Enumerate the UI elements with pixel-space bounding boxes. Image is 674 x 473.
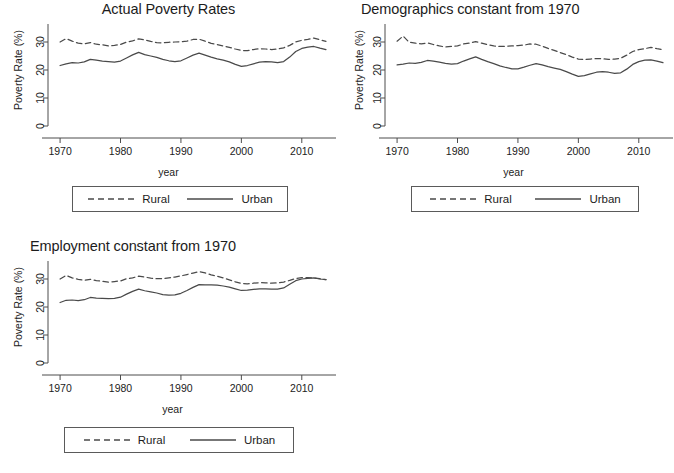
legend-label-rural: Rural	[142, 193, 169, 205]
plot-area: Poverty Rate (%) 01020301970198019902000…	[337, 18, 674, 163]
panel-title: Employment constant from 1970	[30, 237, 350, 256]
series-line-rural	[60, 272, 326, 284]
panel-title: Actual Poverty Rates	[0, 0, 337, 19]
chart-legend: Rural Urban	[72, 186, 288, 212]
line-chart-svg: 010203019701980199020002010	[337, 18, 674, 163]
y-tick-label: 20	[371, 64, 383, 76]
y-tick-label: 0	[371, 123, 383, 129]
x-tick-label: 1990	[506, 145, 530, 157]
legend-item-rural: Rural	[429, 193, 511, 205]
dashed-line-icon	[87, 195, 135, 203]
solid-line-icon	[534, 195, 582, 203]
plot-area: Poverty Rate (%) 01020301970198019902000…	[0, 18, 337, 163]
x-axis-label: year	[4, 403, 341, 415]
figure-panel-grid: Actual Poverty Rates Poverty Rate (%) 01…	[0, 0, 674, 473]
series-line-rural	[397, 36, 663, 60]
series-line-urban	[60, 46, 326, 66]
x-tick-label: 1980	[109, 382, 133, 394]
x-tick-label: 2010	[290, 145, 314, 157]
legend-label-urban: Urban	[241, 193, 272, 205]
legend-item-urban: Urban	[186, 193, 272, 205]
x-tick-label: 1980	[446, 145, 470, 157]
legend-label-urban: Urban	[244, 434, 275, 446]
legend-item-rural: Rural	[87, 193, 169, 205]
y-tick-label: 10	[34, 92, 46, 104]
y-tick-label: 0	[34, 360, 46, 366]
chart-panel-employment-constant: Employment constant from 1970 Poverty Ra…	[0, 237, 337, 473]
dashed-line-icon	[83, 436, 131, 444]
y-tick-label: 10	[371, 92, 383, 104]
dashed-line-icon	[429, 195, 477, 203]
x-tick-label: 2010	[290, 382, 314, 394]
solid-line-icon	[189, 436, 237, 444]
panel-title: Demographics constant from 1970	[361, 0, 674, 19]
y-tick-label: 30	[371, 36, 383, 48]
x-tick-label: 2000	[230, 145, 254, 157]
legend-label-rural: Rural	[484, 193, 511, 205]
series-line-urban	[60, 278, 326, 303]
y-tick-label: 10	[34, 329, 46, 341]
y-tick-label: 20	[34, 301, 46, 313]
chart-legend: Rural Urban	[411, 186, 639, 212]
x-axis-label: year	[0, 166, 337, 178]
solid-line-icon	[186, 195, 234, 203]
legend-item-rural: Rural	[83, 434, 165, 446]
legend-item-urban: Urban	[534, 193, 620, 205]
x-tick-label: 2000	[567, 145, 591, 157]
x-tick-label: 1970	[48, 382, 72, 394]
x-tick-label: 1980	[109, 145, 133, 157]
x-tick-label: 1970	[385, 145, 409, 157]
plot-area: Poverty Rate (%) 01020301970198019902000…	[0, 255, 337, 400]
line-chart-svg: 010203019701980199020002010	[0, 255, 337, 400]
y-tick-label: 30	[34, 36, 46, 48]
y-axis-label: Poverty Rate (%)	[12, 259, 24, 355]
x-tick-label: 1990	[169, 382, 193, 394]
legend-label-rural: Rural	[138, 434, 165, 446]
y-tick-label: 20	[34, 64, 46, 76]
chart-panel-demographics-constant: Demographics constant from 1970 Poverty …	[337, 0, 674, 236]
y-axis-label: Poverty Rate (%)	[12, 22, 24, 118]
line-chart-svg: 010203019701980199020002010	[0, 18, 337, 163]
x-tick-label: 2000	[230, 382, 254, 394]
x-axis-label: year	[345, 166, 674, 178]
series-line-rural	[60, 38, 326, 51]
x-tick-label: 1990	[169, 145, 193, 157]
x-tick-label: 2010	[627, 145, 651, 157]
x-tick-label: 1970	[48, 145, 72, 157]
chart-panel-actual-poverty-rates: Actual Poverty Rates Poverty Rate (%) 01…	[0, 0, 337, 236]
legend-label-urban: Urban	[589, 193, 620, 205]
legend-item-urban: Urban	[189, 434, 275, 446]
chart-legend: Rural Urban	[64, 427, 294, 453]
series-line-urban	[397, 57, 663, 77]
y-tick-label: 30	[34, 273, 46, 285]
y-axis-label: Poverty Rate (%)	[353, 22, 365, 118]
y-tick-label: 0	[34, 123, 46, 129]
